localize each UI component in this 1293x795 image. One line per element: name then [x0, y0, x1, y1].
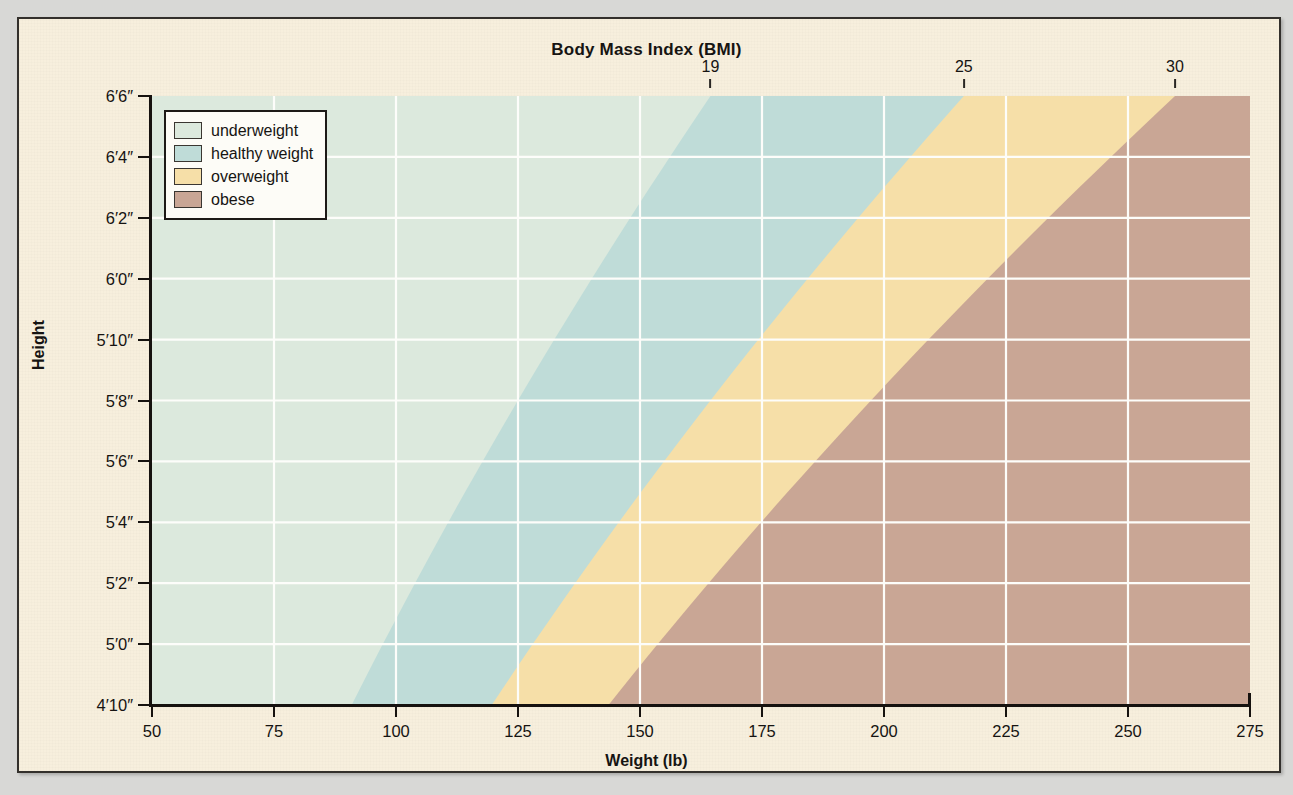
y-tick-mark: [138, 460, 152, 462]
y-tick-mark: [138, 704, 152, 706]
bmi-tick-label: 25: [955, 59, 973, 75]
chart-title: Body Mass Index (BMI): [0, 40, 1293, 60]
x-tick-label: 125: [504, 722, 532, 741]
x-tick-label: 250: [1114, 722, 1142, 741]
x-tick-mark: [1127, 704, 1129, 717]
legend-swatch-icon: [174, 122, 202, 139]
x-tick-label: 175: [748, 722, 776, 741]
bmi-tick-mark: [1174, 79, 1176, 88]
bmi-tick-label: 30: [1166, 59, 1184, 75]
y-tick-label: 6′0″: [106, 269, 133, 288]
x-tick-label: 100: [382, 722, 410, 741]
legend-label: overweight: [211, 169, 288, 185]
y-tick-label: 6′4″: [106, 147, 133, 166]
y-tick-label: 5′8″: [106, 391, 133, 410]
x-tick-label: 75: [265, 722, 283, 741]
y-tick-mark: [138, 95, 152, 97]
y-tick-mark: [138, 521, 152, 523]
y-tick-mark: [138, 156, 152, 158]
bmi-tick-19: 19: [702, 59, 720, 88]
legend-item-healthy-weight: healthy weight: [174, 142, 313, 165]
x-tick-label: 275: [1236, 722, 1264, 741]
y-tick-mark: [138, 339, 152, 341]
x-tick-mark: [761, 704, 763, 717]
bmi-tick-25: 25: [955, 59, 973, 88]
y-tick-mark: [138, 643, 152, 645]
y-tick-mark: [138, 278, 152, 280]
x-tick-mark: [1249, 704, 1251, 717]
bmi-tick-label: 19: [702, 59, 720, 75]
x-tick-label: 150: [626, 722, 654, 741]
y-tick-mark: [138, 400, 152, 402]
x-tick-mark: [517, 704, 519, 717]
bmi-chart: Body Mass Index (BMI) 192530 6′6″6′4″6′2…: [0, 0, 1293, 795]
legend-swatch-icon: [174, 168, 202, 185]
legend-swatch-icon: [174, 145, 202, 162]
x-tick-mark: [151, 704, 153, 717]
y-tick-label: 5′0″: [106, 635, 133, 654]
bmi-tick-30: 30: [1166, 59, 1184, 88]
y-tick-mark: [138, 217, 152, 219]
x-tick-mark: [1005, 704, 1007, 717]
y-tick-label: 5′10″: [97, 330, 133, 349]
x-axis-title: Weight (lb): [0, 752, 1293, 770]
x-tick-label: 50: [143, 722, 161, 741]
legend-label: obese: [211, 192, 255, 208]
chart-legend: underweighthealthy weightoverweightobese: [164, 110, 327, 220]
x-tick-mark: [273, 704, 275, 717]
x-axis-line: [150, 704, 1251, 707]
y-tick-label: 6′6″: [106, 87, 133, 106]
bmi-tick-mark: [709, 79, 711, 88]
legend-swatch-icon: [174, 191, 202, 208]
y-tick-mark: [138, 582, 152, 584]
x-tick-mark: [639, 704, 641, 717]
legend-label: healthy weight: [211, 146, 313, 162]
y-axis-title: Height: [30, 320, 48, 370]
x-tick-mark: [395, 704, 397, 717]
y-tick-label: 5′2″: [106, 574, 133, 593]
x-tick-mark: [883, 704, 885, 717]
y-tick-label: 5′6″: [106, 452, 133, 471]
bmi-tick-mark: [963, 79, 965, 88]
x-tick-label: 225: [992, 722, 1020, 741]
legend-item-underweight: underweight: [174, 119, 313, 142]
y-tick-label: 6′2″: [106, 208, 133, 227]
legend-label: underweight: [211, 123, 298, 139]
page-backdrop: Body Mass Index (BMI) 192530 6′6″6′4″6′2…: [0, 0, 1293, 795]
legend-item-overweight: overweight: [174, 165, 313, 188]
legend-item-obese: obese: [174, 188, 313, 211]
y-tick-label: 4′10″: [97, 696, 133, 715]
x-tick-label: 200: [870, 722, 898, 741]
y-tick-label: 5′4″: [106, 513, 133, 532]
